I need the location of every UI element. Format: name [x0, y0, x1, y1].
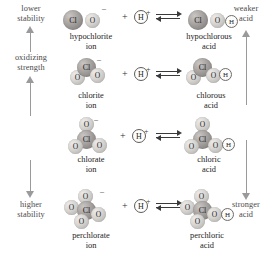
h-charge-superscript: +	[146, 197, 151, 206]
atom-h: H	[219, 68, 232, 81]
atom-o: O	[207, 207, 222, 222]
arrow-up-icon-left-top	[26, 26, 35, 52]
charge-label-chlorate-ion: –	[94, 115, 98, 124]
atom-cl: Cl	[188, 10, 208, 30]
atom-o: O	[190, 214, 205, 229]
caption-perchlorate-ion: perchlorate ion	[48, 231, 134, 250]
atom-h: H	[222, 138, 235, 151]
caption-chlorite-ion: chlorite ion	[48, 91, 134, 110]
equilibrium-arrow-icon-row-3	[156, 200, 182, 212]
left-axis-bottom-label: higher stability	[3, 200, 59, 219]
h-charge-superscript: +	[144, 127, 149, 136]
atom-o: O	[210, 13, 225, 28]
equilibrium-arrow-icon-row-1	[156, 68, 182, 80]
charge-label-perchlorate-ion: –	[100, 187, 104, 196]
atom-h: H	[221, 208, 234, 221]
left-axis-top-label: lower stability	[3, 4, 59, 23]
atom-h: H	[225, 15, 238, 28]
atom-o: O	[85, 13, 100, 28]
equilibrium-arrow-icon-row-2	[156, 130, 182, 142]
left-axis-middle-label-line1: oxidizing	[3, 53, 59, 63]
atom-o: O	[92, 138, 107, 153]
atom-o: O	[68, 139, 83, 154]
caption-chlorous-acid: chlorous acid	[168, 91, 254, 110]
molecule-chlorous-acid: ClOOH	[186, 58, 244, 90]
charge-label-hypochlorite-ion: –	[102, 4, 106, 13]
molecule-chlorite-ion: ClOO	[70, 58, 122, 90]
equilibrium-arrow-icon-row-0	[156, 11, 182, 23]
atom-o: O	[91, 207, 106, 222]
molecule-hypochlorite-ion: ClO	[63, 6, 119, 32]
left-axis-top-label-line2: stability	[3, 14, 59, 24]
atom-o: O	[184, 139, 199, 154]
plus-sign-row-3: +	[122, 200, 128, 211]
caption-hypochlorite-ion: hypochlorite ion	[48, 32, 134, 51]
h-charge-superscript: +	[146, 65, 151, 74]
proton-h-plus-row-2: H +	[132, 129, 146, 143]
atom-o: O	[74, 214, 89, 229]
atom-o: O	[208, 138, 223, 153]
left-axis-bottom-label-line1: higher	[3, 200, 59, 210]
molecule-perchloric-acid: OOClOOH	[180, 189, 240, 233]
proton-h-plus-row-0: H +	[134, 10, 148, 24]
plus-sign-row-2: +	[120, 130, 126, 141]
left-axis-bottom-label-line2: stability	[3, 210, 59, 220]
charge-label-chlorite-ion: –	[97, 55, 101, 64]
left-axis-middle-label: oxidizing strength	[3, 53, 59, 72]
plus-sign-row-0: +	[122, 11, 128, 22]
plus-sign-row-1: +	[122, 68, 128, 79]
left-axis-top-label-line1: lower	[3, 4, 59, 14]
molecule-hypochlorous-acid: ClOH	[188, 6, 244, 32]
caption-chlorate-ion: chlorate ion	[48, 155, 134, 174]
left-axis-middle-label-line2: strength	[3, 63, 59, 73]
atom-o: O	[90, 68, 105, 83]
arrow-up-icon-left-bottom	[26, 76, 35, 116]
h-charge-superscript: +	[146, 8, 151, 17]
caption-hypochlorous-acid: hypochlorous acid	[166, 32, 252, 51]
diagram-canvas: lower stability oxidizing strength highe…	[0, 0, 277, 260]
caption-perchloric-acid: perchloric acid	[164, 231, 250, 250]
arrow-down-icon-left	[26, 160, 35, 198]
molecule-perchlorate-ion: OOClOO	[64, 189, 120, 233]
proton-h-plus-row-3: H +	[134, 199, 148, 213]
proton-h-plus-row-1: H +	[134, 67, 148, 81]
molecule-chloric-acid: OClOOH	[184, 117, 242, 157]
atom-cl: Cl	[63, 10, 83, 30]
caption-chloric-acid: chloric acid	[166, 155, 252, 174]
